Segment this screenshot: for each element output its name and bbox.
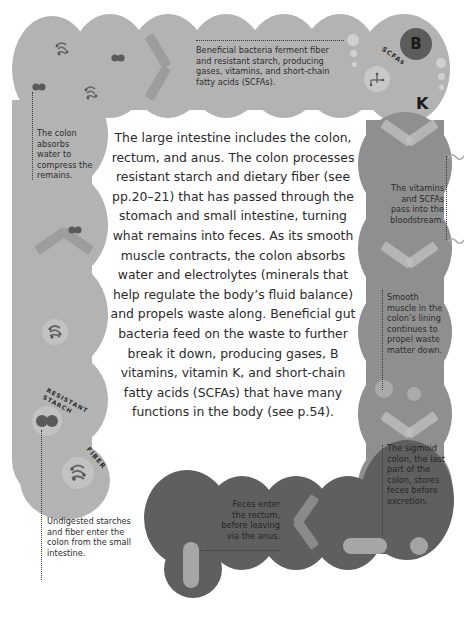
gas-bubble-icon xyxy=(436,58,446,68)
feces-bubble-icon xyxy=(410,537,428,555)
bacteria-icon xyxy=(82,85,100,101)
leader-line xyxy=(446,156,447,240)
starch-molecule-icon xyxy=(68,226,82,234)
feces-pill-icon xyxy=(183,542,199,588)
starch-molecule-icon xyxy=(111,54,125,62)
gas-bubble-icon xyxy=(439,85,444,90)
bloodstream-wave-icon xyxy=(448,236,464,246)
bloodstream-wave-icon xyxy=(448,152,464,162)
bacteria-icon xyxy=(53,41,71,57)
gas-bubble-icon xyxy=(438,73,445,80)
resistant-starch-icon xyxy=(32,406,62,436)
leader-line xyxy=(382,445,383,535)
annotation-bloodstream: The vitamins and SCFAs pass into the blo… xyxy=(384,183,444,225)
leader-line xyxy=(41,430,42,580)
vitamin-k-icon: K xyxy=(416,94,428,113)
leader-line xyxy=(200,550,280,551)
annotation-absorbs-water: The colon absorbs water to compress the … xyxy=(37,128,93,181)
feces-pill-icon xyxy=(343,538,387,554)
leader-line xyxy=(196,40,344,41)
bacteria-icon xyxy=(42,319,68,345)
fiber-icon xyxy=(62,457,94,489)
main-description: The large intestine includes the colon, … xyxy=(110,128,356,422)
gas-bubble-icon xyxy=(375,380,393,398)
gas-bubble-icon xyxy=(352,62,357,67)
vitamin-b-icon: B xyxy=(400,28,432,60)
annotation-entry: Undigested starches and fiber enter the … xyxy=(47,516,137,558)
gas-bubble-icon xyxy=(407,387,421,401)
annotation-sigmoid: The sigmoid colon, the last part of the … xyxy=(387,443,449,507)
scfa-molecule-icon xyxy=(364,66,390,92)
annotation-rectum: Feces enter the rectum, before leaving v… xyxy=(218,499,280,541)
leader-line xyxy=(382,290,383,390)
gas-bubble-icon xyxy=(350,50,357,57)
starch-molecule-icon xyxy=(32,83,46,91)
leader-line xyxy=(32,92,33,180)
gas-bubble-icon xyxy=(347,34,359,46)
annotation-smooth-muscle: Smooth muscle in the colon’s lining cont… xyxy=(387,292,449,356)
annotation-fermentation: Beneficial bacteria ferment fiber and re… xyxy=(196,45,344,87)
